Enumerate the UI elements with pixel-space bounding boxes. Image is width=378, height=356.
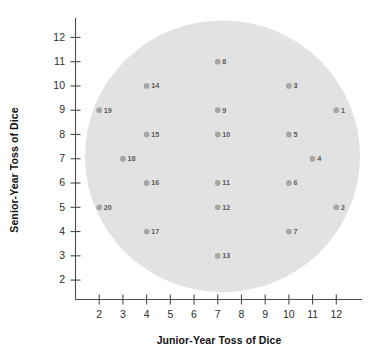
y-axis-title: Senior-Year Toss of Dice (8, 107, 20, 232)
x-axis-title: Junior-Year Toss of Dice (157, 334, 282, 346)
x-tick-label-2: 2 (96, 308, 102, 320)
data-point-marker (286, 132, 292, 138)
x-axis-ticks: 23456789101112 (96, 295, 342, 321)
data-point-marker (144, 229, 150, 235)
data-point-label: 20 (104, 203, 112, 212)
y-tick-label-10: 10 (53, 79, 65, 91)
y-tick-label-3: 3 (59, 249, 65, 261)
data-point-marker (144, 83, 150, 89)
data-point-label: 7 (293, 227, 297, 236)
data-point-marker (144, 180, 150, 186)
data-point-label: 4 (317, 154, 321, 163)
data-point-label: 8 (222, 57, 226, 66)
data-point-marker (215, 204, 221, 210)
data-point-marker (286, 83, 292, 89)
data-point-label: 1 (341, 106, 345, 115)
data-point-label: 18 (128, 154, 136, 163)
data-point-label: 16 (151, 178, 159, 187)
data-point-marker (215, 59, 221, 65)
x-tick-label-11: 11 (307, 308, 318, 320)
y-tick-label-7: 7 (59, 152, 65, 164)
data-point-marker (215, 180, 221, 186)
data-point-label: 14 (151, 81, 159, 90)
x-tick-label-5: 5 (167, 308, 173, 320)
y-tick-label-6: 6 (59, 176, 65, 188)
data-point-marker (215, 107, 221, 113)
data-point-marker (310, 156, 316, 162)
data-point-marker (96, 204, 102, 210)
y-tick-label-5: 5 (59, 201, 65, 213)
x-tick-label-10: 10 (283, 308, 295, 320)
data-point-marker (144, 132, 150, 138)
data-point-marker (120, 156, 126, 162)
data-point-marker (96, 107, 102, 113)
data-point-label: 19 (104, 106, 112, 115)
x-tick-label-9: 9 (262, 308, 268, 320)
y-tick-label-8: 8 (59, 128, 65, 140)
y-tick-label-9: 9 (59, 103, 65, 115)
data-point-label: 6 (293, 178, 297, 187)
y-tick-label-11: 11 (54, 55, 65, 67)
data-point-label: 13 (222, 251, 230, 260)
data-point-label: 15 (151, 130, 159, 139)
y-tick-label-4: 4 (59, 225, 65, 237)
data-point-marker (333, 107, 339, 113)
x-tick-label-7: 7 (215, 308, 221, 320)
scatter-chart: 23456789101112 23456789101112 1234567891… (0, 0, 378, 356)
plot-area: 23456789101112 23456789101112 1234567891… (0, 0, 378, 356)
data-point-marker (333, 204, 339, 210)
data-point-marker (215, 253, 221, 259)
data-point-label: 2 (341, 203, 345, 212)
data-point-marker (286, 180, 292, 186)
data-point-label: 10 (222, 130, 230, 139)
data-point-label: 9 (222, 106, 226, 115)
x-tick-label-8: 8 (239, 308, 245, 320)
x-tick-label-3: 3 (120, 308, 126, 320)
y-axis-ticks: 23456789101112 (53, 31, 80, 286)
data-point-label: 11 (222, 178, 230, 187)
data-point-label: 3 (293, 81, 297, 90)
y-tick-label-2: 2 (59, 273, 65, 285)
data-point-label: 17 (151, 227, 159, 236)
y-tick-label-12: 12 (53, 31, 65, 43)
x-tick-label-6: 6 (191, 308, 197, 320)
data-point-marker (286, 229, 292, 235)
data-point-label: 5 (293, 130, 297, 139)
x-tick-label-12: 12 (330, 308, 342, 320)
data-point-marker (215, 132, 221, 138)
data-point-label: 12 (222, 203, 230, 212)
x-tick-label-4: 4 (144, 308, 150, 320)
